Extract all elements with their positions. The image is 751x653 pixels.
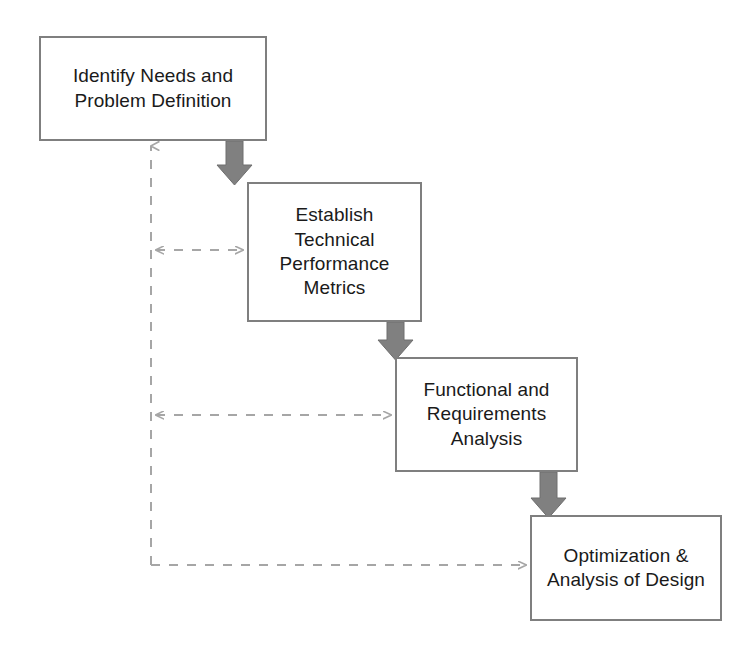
arrow-metrics-to-requirements bbox=[378, 322, 413, 360]
arrow-requirements-to-optimization bbox=[531, 472, 566, 518]
node-requirements-analysis[interactable]: Functional and Requirements Analysis bbox=[395, 357, 578, 472]
diagram-canvas: Identify Needs and Problem Definition Es… bbox=[0, 0, 751, 653]
node-technical-metrics-label: Establish Technical Performance Metrics bbox=[272, 203, 398, 300]
node-technical-metrics[interactable]: Establish Technical Performance Metrics bbox=[247, 182, 422, 322]
node-requirements-analysis-label: Functional and Requirements Analysis bbox=[415, 378, 557, 451]
node-identify-needs[interactable]: Identify Needs and Problem Definition bbox=[39, 36, 267, 141]
node-optimization-design[interactable]: Optimization & Analysis of Design bbox=[530, 515, 722, 621]
node-optimization-design-label: Optimization & Analysis of Design bbox=[539, 544, 713, 593]
arrow-identify-to-metrics bbox=[217, 141, 252, 185]
node-identify-needs-label: Identify Needs and Problem Definition bbox=[65, 64, 241, 113]
